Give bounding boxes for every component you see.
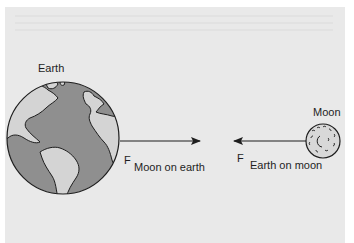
force-subscript: Earth on moon [250, 160, 322, 171]
force-symbol: F [124, 155, 131, 166]
force-subscript: Moon on earth [134, 162, 205, 173]
earth-globe-icon [4, 81, 124, 198]
moon-icon [306, 124, 340, 158]
earth-label: Earth [38, 63, 64, 74]
moon-label: Moon [313, 107, 341, 118]
earth-moon-force-diagram [0, 0, 354, 243]
force-symbol: F [237, 153, 244, 164]
